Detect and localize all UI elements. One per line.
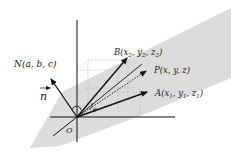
normal-vector-label: n	[40, 88, 50, 103]
svg-text:n: n	[40, 90, 47, 103]
origin-label: O	[66, 126, 73, 135]
point-a-label: A(x1, y1, z1)	[154, 88, 203, 99]
point-b-label: B(x2, y2, z2)	[113, 47, 162, 58]
plane	[30, 8, 231, 148]
normal-point-label: N(a, b, c)	[13, 59, 57, 69]
point-p-label: P(x, y, z)	[153, 65, 190, 75]
plane-normal-diagram: θ N(a, b, c) n O B(x2, y2, z2) P(x, y, z…	[0, 0, 231, 152]
